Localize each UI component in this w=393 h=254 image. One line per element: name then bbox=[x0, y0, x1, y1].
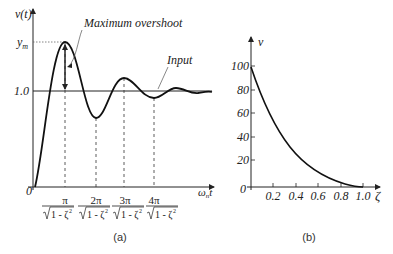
svg-text:1 - ζ: 1 - ζ bbox=[121, 209, 138, 221]
origin-label-a: 0 bbox=[26, 184, 32, 198]
tick-3pi: 3π 1 - ζ 2 bbox=[112, 194, 144, 221]
caption-a: (a) bbox=[113, 231, 126, 243]
svg-text:4π: 4π bbox=[148, 194, 160, 206]
input-leader bbox=[158, 67, 168, 89]
ytick-80: 80 bbox=[237, 83, 249, 97]
svg-text:2: 2 bbox=[105, 208, 108, 214]
tick-pi: π 1 - ζ 2 bbox=[42, 194, 74, 221]
ylabel-b: v bbox=[258, 35, 264, 49]
xtick-0.8: 0.8 bbox=[334, 189, 349, 203]
ytick-20: 20 bbox=[237, 153, 249, 167]
figure: v(t) ym 1.0 0 ωnt Maximum overshoot Inpu… bbox=[0, 0, 393, 254]
one-label: 1.0 bbox=[14, 84, 29, 98]
overshoot-label: Maximum overshoot bbox=[83, 16, 183, 30]
overshoot-vs-zeta-curve bbox=[251, 67, 363, 187]
ytick-60: 60 bbox=[237, 106, 249, 120]
caption-b: (b) bbox=[302, 231, 315, 243]
svg-text:2: 2 bbox=[139, 208, 142, 214]
svg-text:1 - ζ: 1 - ζ bbox=[51, 209, 68, 221]
overshoot-leader bbox=[68, 30, 82, 67]
xlabel-b: ζ bbox=[375, 188, 381, 203]
xlabel-a: ωnt bbox=[198, 186, 213, 200]
input-label: Input bbox=[166, 53, 193, 67]
xtick-1.0: 1.0 bbox=[356, 189, 371, 203]
ym-label: ym bbox=[16, 35, 28, 51]
origin-label-b: 0 bbox=[240, 182, 246, 196]
svg-text:2π: 2π bbox=[90, 194, 102, 206]
xtick-0.6: 0.6 bbox=[311, 189, 326, 203]
svg-text:2: 2 bbox=[173, 208, 176, 214]
svg-text:2: 2 bbox=[69, 208, 72, 214]
ytick-40: 40 bbox=[237, 130, 249, 144]
svg-text:π: π bbox=[62, 194, 68, 206]
ytick-100: 100 bbox=[231, 59, 249, 73]
tick-4pi: 4π 1 - ζ 2 bbox=[146, 194, 178, 221]
tick-2pi: 2π 1 - ζ 2 bbox=[78, 194, 110, 221]
chart-b: v 100 80 60 40 20 0 0.2 0.4 0.6 0.8 1.0 … bbox=[231, 35, 381, 243]
xtick-0.4: 0.4 bbox=[289, 189, 304, 203]
ylabel-a: v(t) bbox=[15, 7, 32, 21]
svg-text:1 - ζ: 1 - ζ bbox=[87, 209, 104, 221]
chart-a: v(t) ym 1.0 0 ωnt Maximum overshoot Inpu… bbox=[14, 7, 214, 243]
y-ticks-b bbox=[251, 66, 255, 160]
svg-text:3π: 3π bbox=[119, 194, 131, 206]
overshoot-leader-head bbox=[67, 63, 72, 68]
svg-text:1 - ζ: 1 - ζ bbox=[155, 209, 172, 221]
xtick-0.2: 0.2 bbox=[266, 189, 281, 203]
